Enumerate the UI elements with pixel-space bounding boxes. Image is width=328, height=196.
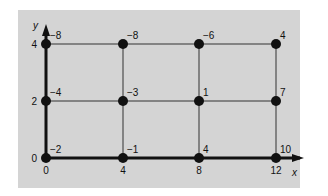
node-value-label: −4 [50, 87, 62, 98]
diagram-canvas: −8−8−64−4−317−2−141004812024xy [0, 0, 328, 196]
y-axis-label: y [32, 20, 39, 31]
node-value-label: 10 [280, 144, 292, 155]
node-value-label: −3 [127, 87, 139, 98]
x-tick-label: 4 [120, 165, 126, 176]
x-tick-label: 8 [196, 165, 202, 176]
y-tick-label: 4 [31, 39, 37, 50]
node-value-label: −8 [127, 30, 139, 41]
y-tick-label: 2 [31, 96, 37, 107]
node-value-label: 1 [203, 87, 209, 98]
node-value-label: 7 [280, 87, 286, 98]
x-axis-label: x [291, 167, 298, 178]
x-tick-label: 0 [43, 165, 49, 176]
y-tick-label: 0 [31, 153, 37, 164]
node-value-label: −8 [50, 30, 62, 41]
node-value-label: −1 [127, 144, 139, 155]
node-value-label: 4 [280, 30, 286, 41]
grid-diagram: −8−8−64−4−317−2−141004812024xy [0, 0, 328, 196]
x-tick-label: 12 [270, 165, 282, 176]
node-value-label: −2 [50, 144, 62, 155]
node-value-label: 4 [203, 144, 209, 155]
node-value-label: −6 [203, 30, 215, 41]
